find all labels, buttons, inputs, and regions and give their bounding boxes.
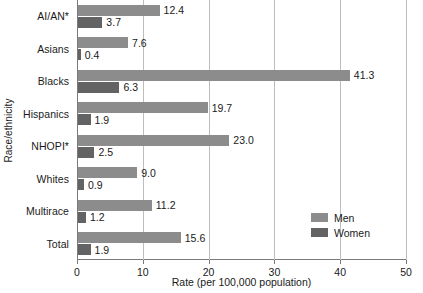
- bar-value-label: 7.6: [132, 37, 147, 49]
- bar-women: [78, 244, 91, 255]
- bar-men: [78, 135, 229, 146]
- bar-men: [78, 102, 208, 113]
- bar-value-label: 1.9: [95, 244, 110, 256]
- bar-value-label: 41.3: [354, 69, 375, 81]
- bar-men: [78, 37, 128, 48]
- bar-women: [78, 114, 91, 125]
- bar-value-label: 23.0: [233, 134, 254, 146]
- y-axis-category-label: Multirace: [26, 205, 69, 217]
- y-axis-title: Race/ethnicity: [0, 0, 16, 260]
- bar-men: [78, 70, 350, 81]
- bar-value-label: 6.3: [123, 81, 138, 93]
- bar-men: [78, 200, 152, 211]
- x-axis-title: Rate (per 100,000 population): [77, 276, 406, 288]
- bar-value-label: 12.4: [164, 4, 185, 16]
- x-axis-tick-mark: [340, 260, 341, 264]
- gridline: [406, 0, 407, 260]
- x-axis-tick-mark: [77, 260, 78, 264]
- y-axis-category-label: AI/AN*: [37, 10, 69, 22]
- y-axis-category-label: Asians: [37, 43, 69, 55]
- gridline: [274, 0, 275, 260]
- chart-legend: MenWomen: [311, 210, 370, 240]
- gridline: [209, 0, 210, 260]
- legend-item: Women: [311, 225, 370, 240]
- legend-item: Men: [311, 210, 370, 225]
- y-axis-title-text: Race/ethnicity: [3, 98, 14, 162]
- bar-women: [78, 49, 81, 60]
- x-axis-tick-mark: [209, 260, 210, 264]
- bar-value-label: 11.2: [156, 199, 176, 211]
- legend-label: Men: [334, 212, 354, 224]
- y-axis-category-label: Hispanics: [23, 108, 69, 120]
- bar-value-label: 2.5: [98, 146, 113, 158]
- bar-men: [78, 167, 137, 178]
- x-axis-tick-mark: [143, 260, 144, 264]
- legend-label: Women: [334, 227, 370, 239]
- bar-value-label: 0.4: [85, 49, 100, 61]
- bar-women: [78, 179, 84, 190]
- bar-value-label: 1.9: [95, 114, 110, 126]
- x-axis-tick-mark: [274, 260, 275, 264]
- y-axis-category-label: NHOPI*: [31, 140, 69, 152]
- bar-men: [78, 5, 160, 16]
- bar-women: [78, 212, 86, 223]
- bar-value-label: 0.9: [88, 179, 103, 191]
- bar-value-label: 1.2: [90, 211, 105, 223]
- bar-value-label: 3.7: [106, 16, 121, 28]
- x-axis-tick-mark: [406, 260, 407, 264]
- y-axis-category-label: Whites: [37, 173, 69, 185]
- bar-value-label: 9.0: [141, 167, 156, 179]
- bar-women: [78, 82, 119, 93]
- legend-swatch-icon: [311, 213, 328, 222]
- y-axis-category-labels: AI/AN*AsiansBlacksHispanicsNHOPI*WhitesM…: [16, 0, 73, 260]
- bar-women: [78, 17, 102, 28]
- bar-women: [78, 147, 94, 158]
- bar-value-label: 19.7: [212, 102, 233, 114]
- y-axis-category-label: Blacks: [38, 75, 69, 87]
- y-axis-category-label: Total: [47, 238, 69, 250]
- legend-swatch-icon: [311, 228, 328, 237]
- bar-value-label: 15.6: [185, 232, 206, 244]
- bar-chart: Race/ethnicity AI/AN*AsiansBlacksHispani…: [0, 0, 423, 293]
- bar-men: [78, 232, 181, 243]
